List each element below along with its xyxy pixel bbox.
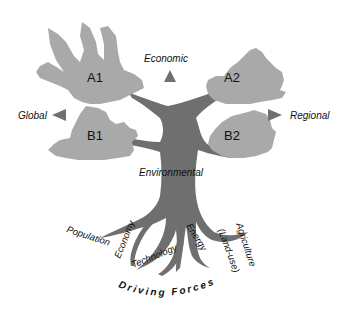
canopy-b2 [208, 110, 276, 158]
economic-arrow-icon [164, 70, 176, 82]
scenario-label-b1: B1 [87, 128, 103, 143]
driving-forces-text: Driving Forces [117, 275, 217, 297]
axis-label-regional: Regional [290, 110, 330, 121]
root-label-population: Population [65, 223, 111, 247]
canopy [36, 22, 286, 160]
scenario-label-b2: B2 [224, 128, 240, 143]
axis-label-economic: Economic [144, 53, 188, 64]
canopy-a1 [36, 22, 144, 104]
scenario-label-a1: A1 [87, 70, 103, 85]
axis-label-global: Global [18, 110, 48, 121]
scenario-label-a2: A2 [224, 70, 240, 85]
regional-arrow-icon [268, 109, 282, 121]
canopy-a2 [206, 48, 286, 104]
driving-forces-title: Driving Forces [117, 275, 217, 297]
scenario-tree-diagram: A1 A2 B1 B2 Economic Global Regional Env… [0, 0, 348, 319]
global-arrow-icon [52, 109, 66, 121]
axis-label-environmental: Environmental [139, 167, 204, 178]
